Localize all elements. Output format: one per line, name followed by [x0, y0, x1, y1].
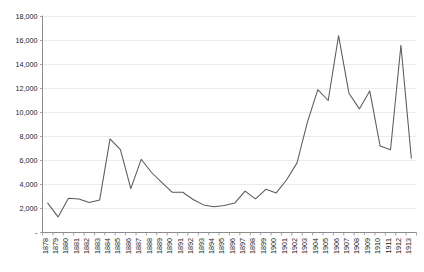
x-tick-label: 1883 [93, 238, 102, 254]
x-tick-label: 1904 [311, 238, 320, 254]
x-tick-label: 1882 [82, 238, 91, 254]
x-tick-label: 1888 [145, 238, 154, 254]
y-axis-tick-labels: -2,0004,0006,0008,00010,00012,00014,0001… [16, 12, 39, 237]
line-chart: -2,0004,0006,0008,00010,00012,00014,0001… [0, 0, 424, 272]
x-tick-label: 1899 [259, 238, 268, 254]
x-tick-label: 1895 [217, 238, 226, 254]
x-tick-label: 1897 [238, 238, 247, 254]
y-tick-label: 16,000 [16, 36, 38, 45]
x-tick-label: 1911 [384, 238, 393, 253]
x-tick-label: 1901 [280, 238, 289, 254]
x-tick-label: 1881 [72, 238, 81, 254]
x-tick-label: 1880 [61, 238, 70, 254]
x-tick-label: 1890 [165, 238, 174, 254]
y-tick-label: 10,000 [16, 108, 38, 117]
data-series-line [48, 36, 412, 217]
x-axis-tick-labels: 1878187918801881188218831884188518861887… [41, 238, 414, 254]
x-tick-label: 1910 [373, 238, 382, 254]
x-tick-label: 1900 [269, 238, 278, 254]
x-tick-label: 1893 [197, 238, 206, 254]
x-tick-label: 1886 [124, 238, 133, 254]
x-tick-label: 1887 [134, 238, 143, 254]
y-tick-label: 8,000 [20, 132, 38, 141]
x-tick-label: 1896 [228, 238, 237, 254]
x-tick-label: 1885 [113, 238, 122, 254]
x-tick-label: 1889 [155, 238, 164, 254]
y-tick-label: 12,000 [16, 84, 38, 93]
y-tick-label: - [35, 228, 38, 237]
x-tick-label: 1903 [300, 238, 309, 254]
x-tick-label: 1907 [342, 238, 351, 254]
x-tick-label: 1894 [207, 238, 216, 254]
y-tick-label: 4,000 [20, 180, 38, 189]
x-tick-label: 1892 [186, 238, 195, 254]
x-tick-label: 1891 [176, 238, 185, 254]
y-tick-label: 14,000 [16, 60, 38, 69]
x-tick-label: 1912 [394, 238, 403, 254]
x-tick-label: 1905 [321, 238, 330, 254]
chart-container: -2,0004,0006,0008,00010,00012,00014,0001… [0, 0, 424, 272]
x-tick-label: 1909 [363, 238, 372, 254]
x-tick-label: 1908 [352, 238, 361, 254]
y-tick-label: 6,000 [20, 156, 38, 165]
x-tick-label: 1879 [51, 238, 60, 254]
x-tick-label: 1898 [248, 238, 257, 254]
y-tick-label: 2,000 [20, 204, 38, 213]
x-tick-label: 1884 [103, 238, 112, 254]
y-tick-label: 18,000 [16, 12, 38, 21]
x-tick-label: 1913 [404, 238, 413, 254]
x-tick-label: 1902 [290, 238, 299, 254]
x-tick-label: 1906 [332, 238, 341, 254]
chart-svg: -2,0004,0006,0008,00010,00012,00014,0001… [0, 0, 424, 272]
x-tick-label: 1878 [41, 238, 50, 254]
gridlines-group [43, 17, 417, 209]
